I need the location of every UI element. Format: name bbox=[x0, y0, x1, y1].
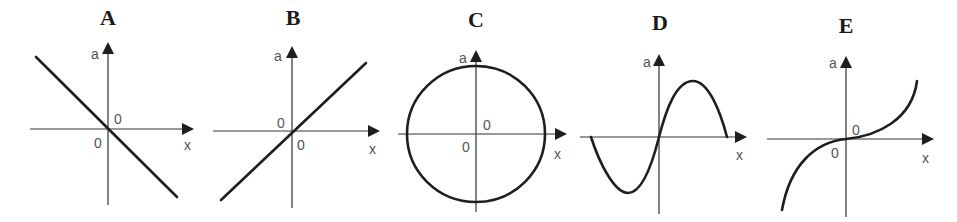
y-axis-label: a bbox=[274, 48, 282, 64]
graphs-figure: A a 0 0 x B a 0 0 x C a 0 0 x D a x bbox=[0, 0, 957, 222]
y-axis-label: a bbox=[459, 50, 467, 66]
panel-d: D a x bbox=[580, 10, 745, 214]
y-axis-label: a bbox=[643, 54, 651, 70]
panel-b: B a 0 0 x bbox=[213, 5, 378, 208]
origin-label: 0 bbox=[462, 139, 470, 155]
x-axis-label: x bbox=[184, 137, 191, 153]
origin-label: 0 bbox=[483, 117, 491, 133]
origin-label: 0 bbox=[297, 137, 305, 153]
y-axis-label: a bbox=[91, 46, 99, 62]
x-axis-label: x bbox=[369, 141, 376, 157]
panel-title: E bbox=[839, 13, 854, 38]
panel-title: D bbox=[652, 10, 668, 35]
graph-curve bbox=[782, 81, 917, 210]
x-axis-label: x bbox=[554, 146, 561, 162]
x-axis-label: x bbox=[736, 147, 743, 163]
y-axis-label: a bbox=[829, 55, 837, 71]
panel-a: A a 0 0 x bbox=[30, 5, 192, 205]
origin-label: 0 bbox=[94, 135, 102, 151]
origin-label: 0 bbox=[831, 145, 839, 161]
origin-label: 0 bbox=[277, 115, 285, 131]
panel-e: E a 0 0 x bbox=[767, 13, 932, 217]
origin-label: 0 bbox=[114, 111, 122, 127]
origin-label: 0 bbox=[852, 122, 860, 138]
panel-title: A bbox=[100, 5, 116, 30]
graph-curve bbox=[36, 57, 177, 197]
panel-c: C a 0 0 x bbox=[398, 7, 565, 212]
panel-title: C bbox=[468, 7, 484, 32]
panel-title: B bbox=[286, 5, 301, 30]
x-axis-label: x bbox=[922, 150, 929, 166]
